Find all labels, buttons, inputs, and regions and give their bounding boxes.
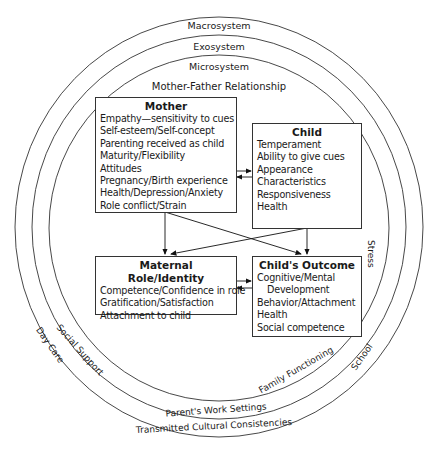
maternal-role-box: Maternal Role/Identity Competence/Confid… <box>95 256 237 315</box>
child-outcome-item: Development <box>257 284 357 296</box>
maternal-role-item: Competence/Confidence in role <box>100 285 232 297</box>
mother-item: Self-esteem/Self-concept <box>100 125 232 137</box>
mother-item: Attitudes <box>100 163 232 175</box>
child-item: Temperament <box>257 139 357 151</box>
mother-item: Empathy—sensitivity to cues <box>100 113 232 125</box>
mother-item: Parenting received as child <box>100 138 232 150</box>
maternal-role-item: Attachment to child <box>100 310 232 322</box>
child-item: Appearance <box>257 164 357 176</box>
child-item: Ability to give cues <box>257 151 357 163</box>
child-outcome-item: Cognitive/Mental <box>257 272 357 284</box>
stress-label-text: Stress <box>366 240 376 268</box>
macrosystem-label: Macrosystem <box>187 20 250 31</box>
mother-item: Role conflict/Strain <box>100 200 232 212</box>
child-outcome-item: Behavior/Attachment <box>257 297 357 309</box>
child-outcome-title: Child's Outcome <box>257 259 357 272</box>
child-box: Child Temperament Ability to give cues A… <box>252 123 362 229</box>
child-outcome-item: Health <box>257 309 357 321</box>
child-title: Child <box>257 126 357 139</box>
child-outcome-box: Child's Outcome Cognitive/Mental Develop… <box>252 256 362 337</box>
mother-item: Health/Depression/Anxiety <box>100 187 232 199</box>
mother-item: Pregnancy/Birth experience <box>100 175 232 187</box>
mother-box: Mother Empathy—sensitivity to cues Self-… <box>95 97 237 213</box>
maternal-role-item: Gratification/Satisfaction <box>100 297 232 309</box>
child-item: Responsiveness <box>257 189 357 201</box>
mother-item: Maturity/Flexibility <box>100 150 232 162</box>
maternal-role-title: Maternal Role/Identity <box>100 259 232 285</box>
child-item: Characteristics <box>257 176 357 188</box>
mother-title: Mother <box>100 100 232 113</box>
child-item: Health <box>257 201 357 213</box>
exosystem-label: Exosystem <box>193 41 245 52</box>
child-outcome-item: Social competence <box>257 322 357 334</box>
mother-father-label: Mother-Father Relationship <box>152 81 286 92</box>
microsystem-label: Microsystem <box>189 61 249 72</box>
